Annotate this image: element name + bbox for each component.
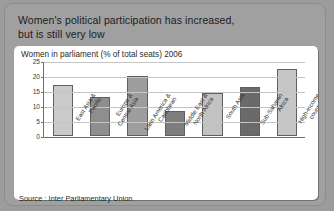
source-note: Source : Inter Parliamentary Union [19,194,132,203]
x-axis-labels: East Asia &PacificEurope &Central AsiaLa… [43,139,305,195]
y-tick-label: 15 [24,88,40,95]
y-tick-mark [41,107,44,108]
y-tick-mark [41,62,44,63]
plot-wrapper: 0510152025 East Asia &PacificEurope &Cen… [14,62,318,200]
y-axis: 0510152025 [24,62,40,138]
y-tick-label: 5 [24,118,40,125]
chart-panel: Women in parliament (% of total seats) 2… [14,46,318,200]
gridline [44,62,305,63]
y-tick-label: 25 [24,58,40,65]
y-tick-mark [41,122,44,123]
y-tick-mark [41,77,44,78]
y-tick-mark [41,92,44,93]
y-tick-label: 0 [24,133,40,140]
page-title: Women's political participation has incr… [18,14,318,41]
poster-frame: Women's political participation has incr… [4,3,326,206]
chart-subtitle: Women in parliament (% of total seats) 2… [21,50,182,59]
gridline [44,92,305,93]
title-line-1: Women's political participation has incr… [18,14,318,28]
y-tick-mark [41,137,44,138]
gridline [44,77,305,78]
title-line-2: but is still very low [18,28,318,42]
y-tick-label: 20 [24,73,40,80]
y-tick-label: 10 [24,103,40,110]
